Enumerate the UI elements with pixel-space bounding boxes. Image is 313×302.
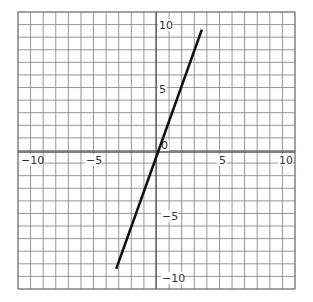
x-tick-neg10: −10 xyxy=(21,154,44,167)
y-tick-neg10: −10 xyxy=(162,272,185,285)
plotted-line xyxy=(116,30,202,269)
y-tick-10: 10 xyxy=(159,19,173,32)
x-tick-10: 10 xyxy=(279,154,293,167)
x-tick-neg5: −5 xyxy=(86,154,102,167)
y-tick-neg5: −5 xyxy=(162,210,178,223)
line-graph: −10 −5 5 10 10 5 0 −5 −10 xyxy=(0,0,313,302)
x-tick-5: 5 xyxy=(219,154,226,167)
y-tick-5: 5 xyxy=(159,83,166,96)
